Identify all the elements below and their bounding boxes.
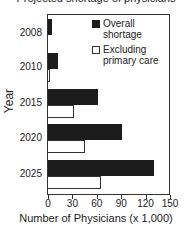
chart-title: Projected shortage of physicians [0,0,192,4]
legend-label: Excluding [103,44,168,55]
bar-overall-2010 [48,53,58,69]
legend-swatch-excluding [92,46,100,54]
bar-excluding-2020 [48,140,85,153]
legend-item-excluding: Excluding primary care [92,44,168,66]
legend-label: primary care [103,55,168,66]
legend: Overall shortage Excluding primary care [92,18,168,70]
x-axis-title: Number of Physicians (x 1,000) [0,212,192,224]
bar-overall-2008 [48,19,52,35]
legend-label: shortage [103,29,168,40]
legend-swatch-overall [92,20,100,28]
bar-overall-2015 [48,89,98,105]
bar-overall-2020 [48,124,122,140]
bar-excluding-2015 [48,105,74,118]
legend-label: Overall [103,18,168,29]
y-tick-label: 2008 [6,27,42,38]
y-tick-label: 2010 [6,61,42,72]
bar-excluding-2025 [48,176,101,189]
y-axis-title: Year [2,86,16,116]
bar-overall-2025 [48,160,154,176]
x-tick-label: 150 [155,198,185,209]
bar-excluding-2010 [48,69,50,82]
y-tick-label: 2025 [6,168,42,179]
legend-item-overall: Overall shortage [92,18,168,40]
y-tick-label: 2020 [6,132,42,143]
